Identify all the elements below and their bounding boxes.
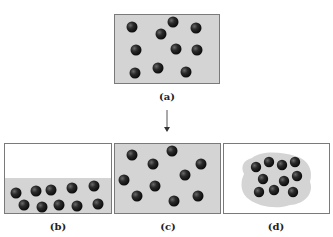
diagram-graphics [0, 0, 333, 237]
panel-d-solid-blob [242, 153, 312, 208]
down-arrow-icon [164, 110, 170, 132]
